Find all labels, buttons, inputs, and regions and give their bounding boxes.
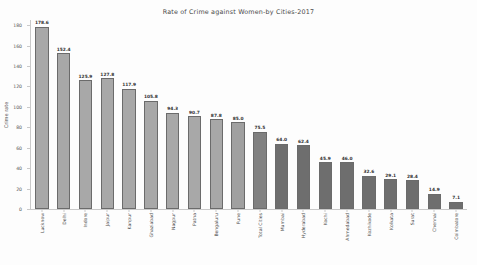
bar-value-label: 117.9 [122,82,136,87]
x-axis-tick-label: Kozhikode [366,213,371,236]
x-axis-tick-label: Pune [236,213,241,224]
y-axis-tick-label: 0 [19,207,22,212]
x-axis-tick [434,210,435,212]
bar[interactable] [35,27,49,209]
y-axis-tick-label: 20 [16,186,22,191]
x-axis-tick-label: Kolkata [388,213,393,230]
chart-figure: Rate of Crime against Women-by Cities-20… [0,0,477,265]
bar-value-label: 45.9 [320,156,331,161]
x-axis-tick [281,210,282,212]
y-axis-title: Crime rate [3,102,9,129]
x-axis-tick [172,210,173,212]
bar[interactable] [79,80,93,209]
y-axis-tick: 140 [27,66,30,67]
bar-value-label: 28.4 [407,174,418,179]
x-axis-tick-label: Indore [83,213,88,228]
bar-value-label: 125.9 [79,74,93,79]
bar[interactable] [384,179,398,209]
x-axis-tick-label: Nagpur [170,213,175,230]
bar-group[interactable]: 94.3Nagpur [166,20,180,209]
bar-group[interactable]: 152.4Delhi [57,20,71,209]
bar-value-label: 152.4 [57,47,71,52]
x-axis-tick-label: Delhi [61,213,66,225]
x-axis-tick [412,210,413,212]
bar[interactable] [101,78,115,209]
bar-group[interactable]: 75.5Total Cities [253,20,267,209]
y-axis-tick: 20 [27,189,30,190]
bar[interactable] [275,144,289,209]
bar[interactable] [231,122,245,209]
bar-series: 178.6Lucknow152.4Delhi125.9Indore127.8Ja… [31,20,467,209]
x-axis-tick [41,210,42,212]
bar-group[interactable]: 127.8Jaipur [101,20,115,209]
bar-group[interactable]: 7.1Coimbatore [449,20,463,209]
x-axis-tick [129,210,130,212]
bar[interactable] [362,176,376,209]
bar-group[interactable]: 85.0Pune [231,20,245,209]
bar-value-label: 29.1 [385,173,396,178]
plot-area: Crime rate 020406080100120140160180 178.… [30,20,467,210]
bar-group[interactable]: 125.9Indore [79,20,93,209]
bar[interactable] [253,132,267,209]
bar-group[interactable]: 62.4Hyderabad [297,20,311,209]
bar-group[interactable]: 28.4Surat [406,20,420,209]
x-axis-tick [325,210,326,212]
bar[interactable] [297,145,311,209]
bar-group[interactable]: 87.8Bengaluru [210,20,224,209]
y-axis-tick-label: 140 [13,63,22,68]
bar[interactable] [122,89,136,209]
bar-value-label: 64.0 [276,137,287,142]
x-axis-tick-label: Total Cities [257,213,262,238]
bar-group[interactable]: 105.8Ghaziabad [144,20,158,209]
bar[interactable] [428,194,442,209]
bar[interactable] [166,113,180,209]
bar-group[interactable]: 29.1Kolkata [384,20,398,209]
y-axis-tick-label: 180 [13,23,22,28]
y-axis-tick-label: 160 [13,43,22,48]
bar-value-label: 105.8 [144,94,158,99]
x-axis-tick-label: Ghaziabad [148,213,153,237]
x-axis-line [30,209,467,210]
bar-group[interactable]: 178.6Lucknow [35,20,49,209]
bar-group[interactable]: 117.9Kanpur [122,20,136,209]
x-axis-tick [303,210,304,212]
y-axis-tick: 120 [27,86,30,87]
bar[interactable] [406,180,420,209]
bar-value-label: 87.8 [211,113,222,118]
bar[interactable] [319,162,333,209]
x-axis-tick [63,210,64,212]
x-axis-tick-label: Coimbatore [454,213,459,240]
bar-value-label: 94.3 [167,106,178,111]
bar-group[interactable]: 90.7Patna [188,20,202,209]
y-axis-tick-label: 100 [13,104,22,109]
bar[interactable] [188,116,202,209]
x-axis-tick [259,210,260,212]
bar-group[interactable]: 45.9Kochi [319,20,333,209]
bar-group[interactable]: 14.9Chennai [428,20,442,209]
bar[interactable] [57,53,71,209]
bar-value-label: 32.6 [363,169,374,174]
bar[interactable] [210,119,224,209]
x-axis-tick-label: Kanpur [127,213,132,229]
x-axis-tick-label: Chennai [432,213,437,232]
bar[interactable] [449,202,463,209]
chart-title: Rate of Crime against Women-by Cities-20… [0,8,477,16]
bar-value-label: 62.4 [298,139,309,144]
bar-group[interactable]: 46.0Ahmedabad [340,20,354,209]
bar-value-label: 14.9 [429,187,440,192]
bar-value-label: 85.0 [233,116,244,121]
bar-value-label: 178.6 [35,20,49,25]
y-axis-tick: 160 [27,46,30,47]
bar[interactable] [144,101,158,209]
bar[interactable] [340,162,354,209]
x-axis-tick-label: Surat [410,213,415,225]
x-axis-tick [347,210,348,212]
x-axis-tick [368,210,369,212]
bar-group[interactable]: 32.6Kozhikode [362,20,376,209]
x-axis-tick [194,210,195,212]
y-axis-tick: 60 [27,148,30,149]
x-axis-tick [238,210,239,212]
bar-group[interactable]: 64.0Mumbai [275,20,289,209]
bar-value-label: 75.5 [254,125,265,130]
x-axis-tick-label: Bengaluru [214,213,219,237]
